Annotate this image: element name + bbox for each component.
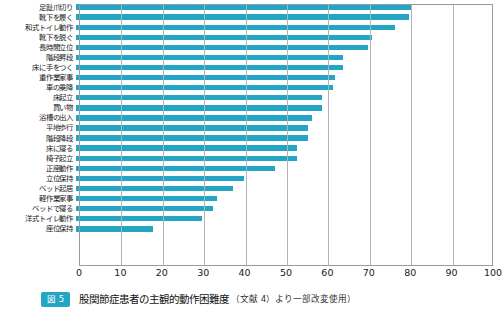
- bar-row: 洋式トイレ動作: [0, 214, 504, 224]
- bar-row: ベッドで寝る: [0, 204, 504, 214]
- bar-row: 靴下を履く: [0, 12, 504, 22]
- bar-row: 平地歩行: [0, 123, 504, 133]
- x-tick-label: 20: [156, 267, 168, 278]
- bar-category-label: 浴槽の出入: [0, 113, 76, 122]
- bar: [76, 65, 343, 70]
- bar: [76, 226, 153, 231]
- bar-track: [76, 214, 504, 224]
- bar: [76, 196, 217, 201]
- bar-track: [76, 123, 504, 133]
- bar: [76, 186, 233, 191]
- x-tick-label: 40: [239, 267, 251, 278]
- caption-title: 股関節症患者の主観的動作困難度: [79, 293, 229, 305]
- bar: [76, 145, 297, 150]
- x-tick-label: 0: [76, 267, 82, 278]
- caption-source: （文献 4）より一部改変使用）: [231, 293, 356, 305]
- bar-track: [76, 113, 504, 123]
- bar-track: [76, 183, 504, 193]
- x-tick-label: 30: [197, 267, 209, 278]
- bar-track: [76, 22, 504, 32]
- bar: [76, 95, 322, 100]
- bar-track: [76, 42, 504, 52]
- bar-row: 重作業家事: [0, 73, 504, 83]
- x-axis: 0102030405060708090100: [0, 264, 504, 286]
- bar: [76, 135, 308, 140]
- bar-category-label: 床起立: [0, 93, 76, 102]
- bar-category-label: 長時間立位: [0, 43, 76, 52]
- bar-row: 階段降段: [0, 133, 504, 143]
- bar: [76, 4, 411, 9]
- bar: [76, 45, 368, 50]
- bar-row: 靴下を脱ぐ: [0, 32, 504, 42]
- bar-category-label: 平地歩行: [0, 123, 76, 132]
- bar-track: [76, 153, 504, 163]
- bar-track: [76, 204, 504, 214]
- bar-row: 床起立: [0, 93, 504, 103]
- bar-track: [76, 93, 504, 103]
- bar-category-label: 床に寝る: [0, 144, 76, 153]
- bar-row: 床に寝る: [0, 143, 504, 153]
- bar-category-label: 車の乗降: [0, 83, 76, 92]
- bar-row: 軽作業家事: [0, 193, 504, 203]
- x-tick-label: 10: [114, 267, 126, 278]
- bar: [76, 35, 372, 40]
- bar-row: 足趾爪切り: [0, 2, 504, 12]
- bar-row: 車の乗降: [0, 83, 504, 93]
- bar-category-label: ベッドで寝る: [0, 204, 76, 213]
- bar-chart: 足趾爪切り靴下を履く和式トイレ動作靴下を脱ぐ長時間立位階段昇段床に手をつく重作業…: [0, 2, 504, 264]
- bar-category-label: 正座動作: [0, 164, 76, 173]
- bar-row: 立位保持: [0, 173, 504, 183]
- bar-category-label: ベッド起居: [0, 184, 76, 193]
- bar-row: 和式トイレ動作: [0, 22, 504, 32]
- bar-track: [76, 103, 504, 113]
- bar-track: [76, 83, 504, 93]
- bar-category-label: 靴下を履く: [0, 13, 76, 22]
- bar: [76, 75, 335, 80]
- figure-number-badge: 図 5: [41, 292, 70, 307]
- x-tick-label: 100: [484, 267, 502, 278]
- x-tick-label: 60: [321, 267, 333, 278]
- x-tick-label: 90: [446, 267, 458, 278]
- bar: [76, 176, 244, 181]
- bar-category-label: 靴下を脱ぐ: [0, 33, 76, 42]
- bar-row: 正座動作: [0, 163, 504, 173]
- bar: [76, 156, 297, 161]
- bar: [76, 85, 333, 90]
- bar-track: [76, 193, 504, 203]
- bar-row: 浴槽の出入: [0, 113, 504, 123]
- bar-track: [76, 32, 504, 42]
- bar: [76, 125, 308, 130]
- bar: [76, 105, 322, 110]
- bar-row: 椅子起立: [0, 153, 504, 163]
- bar-row: ベッド起居: [0, 183, 504, 193]
- bar: [76, 216, 202, 221]
- bar-category-label: 軽作業家事: [0, 194, 76, 203]
- bar-rows: 足趾爪切り靴下を履く和式トイレ動作靴下を脱ぐ長時間立位階段昇段床に手をつく重作業…: [0, 2, 504, 264]
- figure-caption: 図 5 股関節症患者の主観的動作困難度 （文献 4）より一部改変使用）: [0, 289, 504, 309]
- bar-track: [76, 163, 504, 173]
- bar-track: [76, 2, 504, 12]
- bar-row: 床に手をつく: [0, 62, 504, 72]
- x-tick-label: 80: [404, 267, 416, 278]
- bar-category-label: 買い物: [0, 103, 76, 112]
- bar-track: [76, 12, 504, 22]
- bar-track: [76, 224, 504, 234]
- bar-category-label: 階段昇段: [0, 53, 76, 62]
- bar: [76, 115, 312, 120]
- bar-category-label: 床に手をつく: [0, 63, 76, 72]
- bar: [76, 25, 395, 30]
- bar: [76, 166, 275, 171]
- bar-category-label: 椅子起立: [0, 154, 76, 163]
- bar-track: [76, 52, 504, 62]
- bar-category-label: 立位保持: [0, 174, 76, 183]
- x-tick-label: 70: [363, 267, 375, 278]
- bar-track: [76, 62, 504, 72]
- bar: [76, 14, 409, 19]
- bar-track: [76, 73, 504, 83]
- bar-category-label: 座位保持: [0, 224, 76, 233]
- bar-category-label: 重作業家事: [0, 73, 76, 82]
- bar-row: 階段昇段: [0, 52, 504, 62]
- bar: [76, 206, 213, 211]
- x-tick-label: 50: [280, 267, 292, 278]
- bar-track: [76, 173, 504, 183]
